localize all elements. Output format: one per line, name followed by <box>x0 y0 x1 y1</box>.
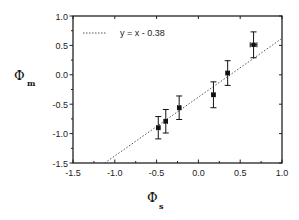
square-marker-icon <box>164 119 168 123</box>
y-axis-title: Φ m <box>14 68 36 88</box>
x-tick-label: -0.5 <box>149 168 165 178</box>
fit-line-path <box>105 38 282 163</box>
y-tick-label: -1.0 <box>52 129 68 139</box>
scatter-chart: -1.5-1.0-0.50.00.51.0-1.5-1.0-0.50.00.51… <box>0 0 299 220</box>
data-points <box>155 32 257 139</box>
plot-frame <box>73 16 282 163</box>
square-marker-icon <box>156 126 160 130</box>
x-tick-label: -1.0 <box>107 168 123 178</box>
data-point <box>210 82 216 108</box>
y-tick-label: 1.0 <box>55 12 68 22</box>
x-tick-label: 0.0 <box>192 168 205 178</box>
x-axis-title: Φ s <box>147 190 164 211</box>
y-tick-label: -0.5 <box>52 100 68 110</box>
square-marker-icon <box>177 106 181 110</box>
plot-border <box>73 16 282 163</box>
x-tick-label: 0.5 <box>234 168 247 178</box>
legend-label: y = x - 0.38 <box>120 28 165 38</box>
data-point <box>155 117 161 139</box>
y-axis-subscript: m <box>27 78 36 88</box>
y-tick-label: 0.5 <box>55 41 68 51</box>
y-tick-label: -1.5 <box>52 159 68 169</box>
data-point <box>225 61 231 86</box>
fit-line <box>105 38 282 163</box>
data-point <box>176 96 182 120</box>
x-tick-label: 1.0 <box>276 168 289 178</box>
x-tick-label: -1.5 <box>65 168 81 178</box>
x-axis-subscript: s <box>159 201 164 211</box>
square-marker-icon <box>225 71 229 75</box>
axis-tick-labels: -1.5-1.0-0.50.00.51.0-1.5-1.0-0.50.00.51… <box>52 12 288 179</box>
axis-ticks <box>70 16 283 163</box>
data-point <box>163 109 169 133</box>
x-axis-symbol: Φ <box>147 190 158 205</box>
y-axis-symbol: Φ <box>14 68 25 83</box>
legend: y = x - 0.38 <box>83 28 165 38</box>
data-point <box>250 32 257 58</box>
square-marker-icon <box>251 43 255 47</box>
y-tick-label: 0.0 <box>55 70 68 80</box>
square-marker-icon <box>211 93 215 97</box>
